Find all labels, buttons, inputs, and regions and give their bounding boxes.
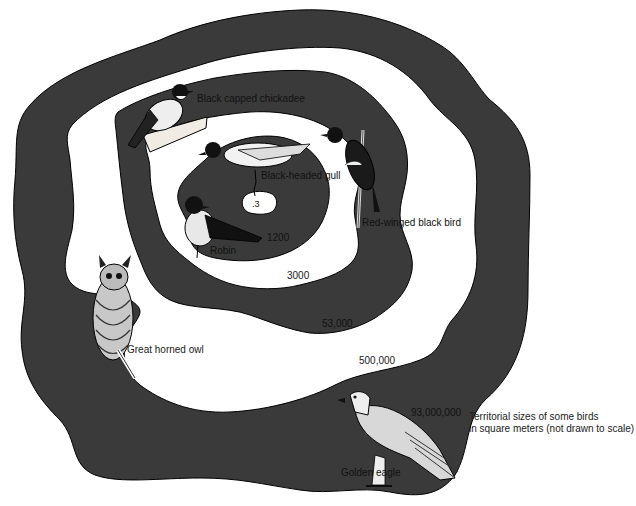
area-gull: .3 (252, 199, 260, 210)
label-eagle: Golden eagle (341, 467, 401, 478)
label-chickadee: Black capped chickadee (197, 93, 305, 104)
label-robin: Robin (210, 245, 236, 256)
area-robin: 1200 (267, 232, 289, 243)
area-blackbird: 53,000 (322, 318, 353, 329)
diagram-caption: Territorial sizes of some birds in squar… (469, 411, 634, 435)
label-owl: Great horned owl (127, 344, 204, 355)
caption-line-1: Territorial sizes of some birds (469, 411, 634, 423)
area-owl: 500,000 (359, 355, 395, 366)
caption-line-2: in square meters (not drawn to scale) (469, 423, 634, 435)
label-gull: Black-headed gull (261, 170, 341, 181)
label-blackbird: Red-winged black bird (362, 217, 461, 228)
area-chickadee: 3000 (287, 270, 309, 281)
area-eagle: 93,000,000 (411, 407, 461, 418)
